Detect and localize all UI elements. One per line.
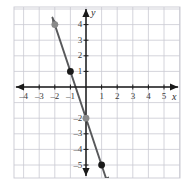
data-point [51,21,58,28]
data-point [83,115,90,122]
x-tick-label: –1 [60,92,80,101]
data-point [98,162,105,169]
y-tick-label: –4 [63,145,82,154]
coordinate-plane-figure: –4–3–2–112345 4321–2–3–4–5 x y [0,0,195,196]
y-tick-label: 3 [63,36,82,45]
y-tick-label: –3 [63,129,82,138]
x-axis-label: x [172,92,176,102]
y-tick-label: 4 [63,20,82,29]
y-tick-label: –5 [63,161,82,170]
y-tick-label: –2 [63,114,82,123]
y-tick-label: 1 [63,67,82,76]
y-tick-label: 2 [63,51,82,60]
x-tick-label: 5 [154,92,174,101]
y-axis-label: y [91,8,95,18]
